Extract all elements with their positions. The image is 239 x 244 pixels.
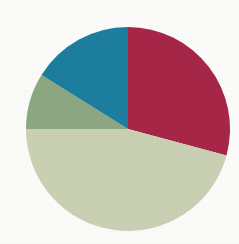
pie-chart-svg <box>0 0 239 244</box>
pie-chart-figure <box>0 0 239 244</box>
pie-slices-group <box>26 27 230 231</box>
